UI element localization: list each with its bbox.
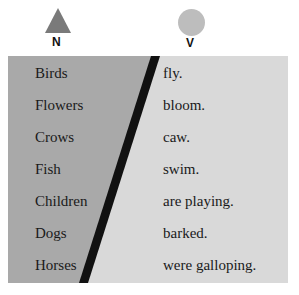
predicate-6: were galloping.: [163, 257, 256, 274]
predicate-1: bloom.: [163, 97, 205, 114]
subject-5: Dogs: [35, 225, 67, 242]
subject-3: Fish: [35, 161, 61, 178]
verb-circle-icon: [178, 9, 205, 36]
subject-2: Crows: [35, 129, 74, 146]
noun-triangle-icon: [45, 8, 71, 33]
predicate-0: fly.: [163, 65, 182, 82]
predicate-3: swim.: [163, 161, 199, 178]
subject-4: Children: [35, 193, 88, 210]
predicate-5: barked.: [163, 225, 208, 242]
predicate-4: are playing.: [163, 193, 234, 210]
verb-label: V: [186, 36, 194, 50]
subject-0: Birds: [35, 65, 68, 82]
subject-1: Flowers: [35, 97, 83, 114]
sentence-panel: Birds fly. Flowers bloom. Crows caw. Fis…: [8, 56, 288, 283]
predicate-2: caw.: [163, 129, 190, 146]
noun-label: N: [52, 35, 61, 49]
subject-6: Horses: [35, 257, 77, 274]
